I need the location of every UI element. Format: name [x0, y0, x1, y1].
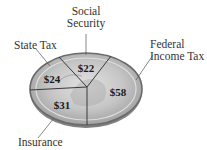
label-social-security: Social Security	[64, 5, 108, 29]
value-insurance: $31	[54, 99, 71, 111]
label-state-tax: State Tax	[14, 39, 57, 51]
value-social-security: $22	[78, 62, 95, 74]
pie-chart: $22 $24 $58 $31 Social Security State Ta…	[0, 0, 207, 150]
label-insurance: Insurance	[18, 136, 63, 148]
label-federal-income-tax: Federal Income Tax	[150, 38, 204, 62]
value-state-tax: $24	[44, 73, 61, 85]
value-federal-income-tax: $58	[110, 86, 127, 98]
